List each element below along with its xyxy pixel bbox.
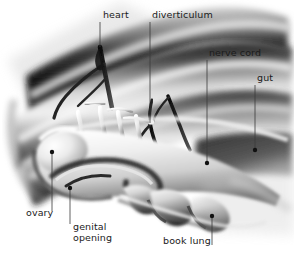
leader-dot-gut	[253, 148, 257, 152]
label-nerve-cord[interactable]: nerve cord	[209, 47, 261, 58]
label-genital-opening[interactable]: genital opening	[73, 221, 133, 243]
label-ovary[interactable]: ovary	[26, 207, 53, 218]
leader-dot-ovary	[50, 150, 54, 154]
leader-dot-nerve-cord	[205, 161, 209, 165]
label-genital-opening-line1: genital	[73, 221, 133, 232]
label-genital-opening-line2: opening	[73, 232, 133, 243]
leader-dot-genital-opening	[68, 186, 72, 190]
label-heart[interactable]: heart	[103, 9, 129, 20]
leader-dots-group	[50, 148, 257, 218]
anatomy-figure: heart diverticulum nerve cord gut ovary …	[0, 0, 294, 263]
label-gut[interactable]: gut	[257, 72, 273, 83]
label-book-lung[interactable]: book lung	[163, 235, 211, 246]
callout-overlay	[0, 0, 294, 263]
label-diverticulum[interactable]: diverticulum	[152, 9, 213, 20]
leader-dot-book-lung	[210, 214, 214, 218]
